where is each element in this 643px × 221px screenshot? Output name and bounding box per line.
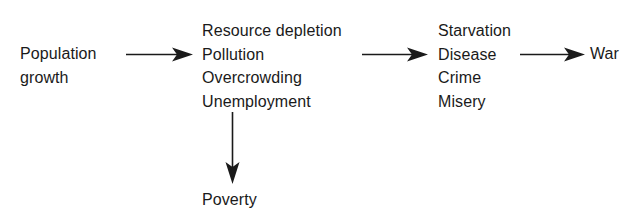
node-poverty: Poverty [202, 188, 257, 212]
consequence-starvation: Starvation [438, 19, 511, 43]
node-population-growth: Population growth [20, 42, 97, 89]
effect-overcrowding: Overcrowding [202, 66, 342, 90]
node-label-line: War [590, 42, 619, 66]
consequence-crime: Crime [438, 66, 511, 90]
node-label-line: growth [20, 66, 97, 90]
consequence-misery: Misery [438, 90, 511, 114]
effect-resource-depletion: Resource depletion [202, 19, 342, 43]
node-war: War [590, 42, 619, 66]
effect-unemployment: Unemployment [202, 90, 342, 114]
effect-pollution: Pollution [202, 43, 342, 67]
node-label-line: Poverty [202, 188, 257, 212]
arrow-consequences-to-war [520, 48, 585, 62]
arrow-effects-to-poverty [226, 112, 240, 184]
arrow-effects-to-consequences [362, 48, 428, 62]
node-label-line: Population [20, 42, 97, 66]
arrow-population-to-effects [126, 48, 193, 62]
consequence-disease: Disease [438, 43, 511, 67]
node-effects: Resource depletion Pollution Overcrowdin… [202, 19, 342, 113]
node-consequences: Starvation Disease Crime Misery [438, 19, 511, 113]
